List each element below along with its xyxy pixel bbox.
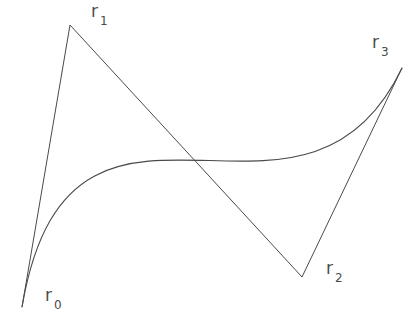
point-label-r2: r2 — [326, 260, 341, 280]
point-label-r3: r3 — [372, 34, 387, 54]
point-label-r0-subscript: 0 — [54, 298, 62, 312]
point-label-r1: r1 — [91, 3, 106, 23]
point-label-r0: r0 — [45, 287, 60, 307]
bezier-canvas — [0, 0, 414, 330]
point-label-r1-subscript: 1 — [100, 14, 108, 28]
point-label-r2-subscript: 2 — [335, 271, 343, 285]
point-label-r2-base: r — [326, 258, 333, 278]
point-label-r1-base: r — [91, 1, 98, 21]
point-label-r0-base: r — [45, 285, 52, 305]
bezier-figure: r0 r1 r2 r3 — [0, 0, 414, 330]
control-polygon — [22, 25, 402, 307]
point-label-r3-subscript: 3 — [381, 45, 389, 59]
point-label-r3-base: r — [372, 32, 379, 52]
